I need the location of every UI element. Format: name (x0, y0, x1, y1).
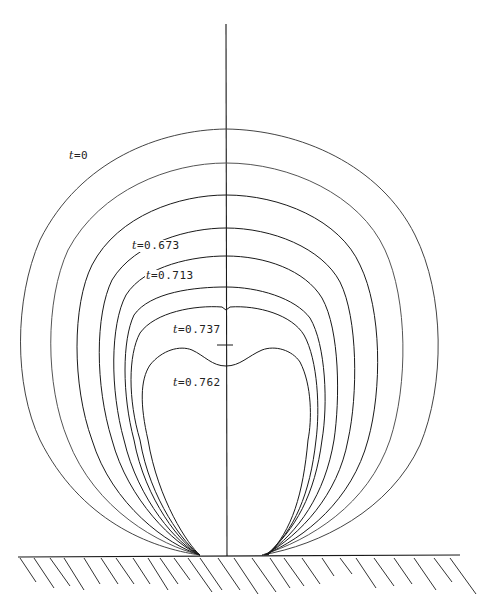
label-value: =0.673 (137, 239, 180, 252)
label-t0713: t=0.713 (145, 270, 195, 282)
bubble-collapse-diagram: t=0 t=0.673 t=0.713 t=0.737 t=0.762 (0, 0, 487, 598)
wall-surface (18, 555, 460, 557)
curve-6 (125, 287, 325, 555)
diagram-canvas (0, 0, 487, 598)
label-t0: t=0 (68, 150, 89, 162)
label-t0737: t=0.737 (172, 324, 222, 336)
wall-hatching (20, 558, 476, 594)
label-value: =0.762 (178, 376, 221, 389)
label-t0673: t=0.673 (131, 240, 181, 252)
label-value: =0.737 (178, 323, 221, 336)
symmetry-axis (226, 24, 227, 556)
label-value: =0.713 (151, 269, 194, 282)
label-t0762: t=0.762 (172, 377, 222, 389)
curve-t0 (21, 129, 439, 555)
curve-t0737 (131, 307, 318, 555)
label-value: =0 (74, 149, 88, 162)
